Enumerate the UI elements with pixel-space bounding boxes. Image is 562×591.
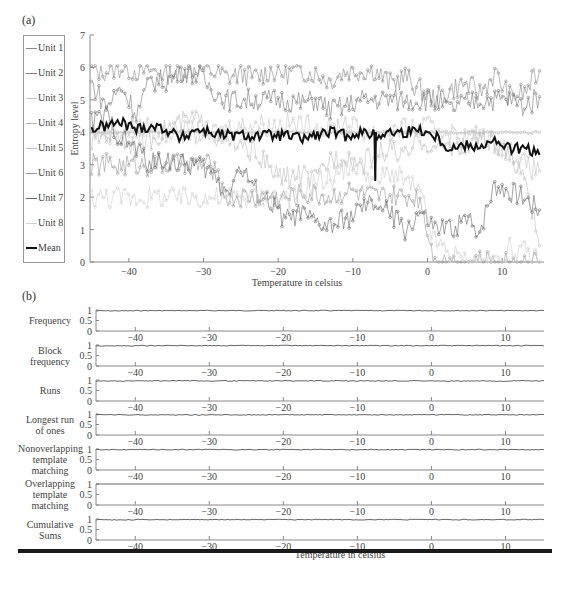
panel-b-subplot: 10.50−40−30−20−10010 <box>80 375 545 414</box>
svg-text:−30: −30 <box>201 367 217 378</box>
subplot-label: Runs <box>18 385 82 396</box>
subplot-label: Overlappingtemplatematching <box>18 478 82 511</box>
svg-text:1: 1 <box>87 444 92 455</box>
svg-text:−10: −10 <box>350 436 366 447</box>
svg-text:10: 10 <box>497 266 507 277</box>
svg-text:−10: −10 <box>350 471 366 482</box>
svg-text:1: 1 <box>87 375 92 386</box>
panel-b-subplot: 10.50−40−30−20−10010 <box>80 340 545 379</box>
panel-b-subplot: 10.50−40−30−20−10010 <box>80 305 545 344</box>
svg-text:−10: −10 <box>350 367 366 378</box>
svg-text:10: 10 <box>500 332 510 343</box>
svg-text:6: 6 <box>80 62 85 73</box>
svg-text:−10: −10 <box>350 332 366 343</box>
svg-text:3: 3 <box>80 160 85 171</box>
svg-text:0: 0 <box>429 367 434 378</box>
svg-text:0: 0 <box>429 506 434 517</box>
svg-text:0: 0 <box>429 471 434 482</box>
svg-text:−20: −20 <box>276 367 292 378</box>
svg-text:1: 1 <box>87 305 92 316</box>
series-unit-1 <box>90 65 541 112</box>
svg-text:−20: −20 <box>270 266 286 277</box>
svg-text:1: 1 <box>87 514 92 525</box>
bottom-rule <box>18 549 552 553</box>
panel-b-subplot: 10.50−40−30−20−10010 <box>80 444 545 483</box>
subplot-label: Frequency <box>18 315 82 326</box>
svg-text:4: 4 <box>80 127 85 138</box>
svg-text:10: 10 <box>500 506 510 517</box>
svg-text:−40: −40 <box>127 332 143 343</box>
svg-text:2: 2 <box>80 192 85 203</box>
svg-text:−20: −20 <box>276 506 292 517</box>
subplot-label: Longest runof ones <box>18 414 82 436</box>
svg-text:5: 5 <box>80 95 85 106</box>
svg-text:−30: −30 <box>201 436 217 447</box>
svg-text:−30: −30 <box>201 506 217 517</box>
svg-text:−10: −10 <box>350 506 366 517</box>
svg-text:−40: −40 <box>127 367 143 378</box>
panel-a-plot: 01234567−40−30−20−10010Temperature in ce… <box>69 30 544 288</box>
svg-text:−20: −20 <box>276 436 292 447</box>
svg-text:0: 0 <box>87 465 92 476</box>
svg-text:0: 0 <box>87 396 92 407</box>
svg-text:7: 7 <box>80 30 85 41</box>
svg-text:0: 0 <box>80 257 85 268</box>
svg-text:10: 10 <box>500 367 510 378</box>
svg-text:10: 10 <box>500 436 510 447</box>
svg-text:−40: −40 <box>121 266 137 277</box>
svg-text:−30: −30 <box>196 266 212 277</box>
panel-a-ylabel: Entropy level <box>69 101 80 155</box>
svg-text:−30: −30 <box>201 402 217 413</box>
svg-text:0: 0 <box>87 326 92 337</box>
series-unit-7 <box>90 106 541 241</box>
svg-text:0: 0 <box>87 535 92 546</box>
subplot-label: Blockfrequency <box>18 345 82 367</box>
svg-text:−40: −40 <box>127 436 143 447</box>
subplot-label: Nonoverlappingtemplatematching <box>18 443 82 476</box>
series-unit-3 <box>90 112 541 180</box>
subplot-label: CumulativeSums <box>18 519 82 541</box>
svg-text:−20: −20 <box>276 332 292 343</box>
svg-text:10: 10 <box>500 471 510 482</box>
svg-text:−10: −10 <box>345 266 361 277</box>
svg-text:1: 1 <box>87 340 92 351</box>
panel-a-xlabel: Temperature in celsius <box>252 277 342 288</box>
svg-text:−20: −20 <box>276 471 292 482</box>
series-unit-8 <box>90 157 541 263</box>
svg-text:0: 0 <box>425 266 430 277</box>
svg-text:0: 0 <box>429 332 434 343</box>
svg-text:0: 0 <box>87 430 92 441</box>
svg-text:0: 0 <box>87 500 92 511</box>
svg-text:1: 1 <box>87 409 92 420</box>
svg-text:−40: −40 <box>127 402 143 413</box>
svg-text:0: 0 <box>429 436 434 447</box>
svg-text:−40: −40 <box>127 506 143 517</box>
svg-text:−10: −10 <box>350 402 366 413</box>
svg-text:−20: −20 <box>276 402 292 413</box>
svg-text:−30: −30 <box>201 471 217 482</box>
panel-b-subplot: 10.50−40−30−20−10010 <box>80 479 545 518</box>
svg-text:1: 1 <box>80 225 85 236</box>
svg-text:1: 1 <box>87 479 92 490</box>
svg-text:0: 0 <box>429 402 434 413</box>
svg-text:0: 0 <box>87 361 92 372</box>
panel-b-subplot: 10.50−40−30−20−10010 <box>80 409 545 448</box>
panel-b-subplot: 10.50−40−30−20−10010 <box>80 514 545 553</box>
svg-text:10: 10 <box>500 402 510 413</box>
svg-text:−40: −40 <box>127 471 143 482</box>
chart-canvas: 01234567−40−30−20−10010Temperature in ce… <box>0 0 562 591</box>
svg-text:−30: −30 <box>201 332 217 343</box>
